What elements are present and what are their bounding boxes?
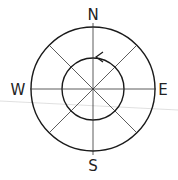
arrow-icon xyxy=(96,52,103,62)
compass-diagram: N E S W xyxy=(0,0,178,180)
label-east: E xyxy=(158,81,167,99)
label-south: S xyxy=(88,157,98,175)
label-west: W xyxy=(11,81,26,99)
label-north: N xyxy=(87,6,98,24)
